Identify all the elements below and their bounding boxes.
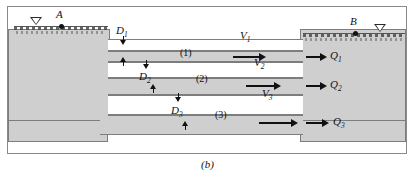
- pipe-1-diameter-symbol: D: [116, 24, 124, 36]
- pipe-2-section-label: (2): [196, 74, 208, 84]
- pipe-2-diameter-label: D2: [139, 71, 151, 85]
- pipe-2-velocity-label: V2: [254, 57, 264, 71]
- left-reservoir-lower-step: [8, 120, 108, 142]
- pipe-2-velocity-symbol: V: [254, 56, 261, 68]
- pipe-1-diameter-subscript: 1: [124, 30, 128, 39]
- pipe-1-flow-band: [108, 51, 303, 62]
- pipe-1-discharge-label: Q1: [330, 50, 342, 64]
- figure-schematic: A B D1 (1) V1 Q1 D2 (2): [0, 0, 415, 180]
- pipe-1-velocity-symbol: V: [240, 29, 247, 41]
- pipe-3-velocity-symbol: V: [262, 87, 269, 99]
- pipe-3-diameter-label: D3: [171, 105, 183, 119]
- left-water-level-triangle-icon: [30, 17, 42, 25]
- pipe-3-discharge-symbol: Q: [333, 115, 341, 127]
- point-b-marker: [353, 31, 358, 36]
- point-a-marker: [59, 24, 64, 29]
- pipe-1-discharge-symbol: Q: [330, 49, 338, 61]
- pipe-2-discharge-label: Q2: [330, 79, 342, 93]
- pipe-3-velocity-label: V3: [262, 88, 272, 102]
- pipe-3-flow-band: [108, 115, 303, 135]
- pipe-2-diameter-symbol: D: [139, 70, 147, 82]
- right-water-hatch-lower: [305, 38, 403, 41]
- pipe-2-velocity-subscript: 2: [261, 62, 265, 71]
- pipe-3-diameter-symbol: D: [171, 104, 179, 116]
- pipe-2-discharge-subscript: 2: [338, 84, 342, 93]
- pipe-3-velocity-subscript: 3: [269, 93, 273, 102]
- point-b-label: B: [350, 16, 357, 27]
- pipe-3-channel: [108, 95, 303, 115]
- pipe-1-diameter-label: D1: [116, 25, 128, 39]
- pipe-3-diameter-subscript: 3: [179, 110, 183, 119]
- left-water-hatch-lower: [16, 31, 106, 34]
- figure-caption: (b): [0, 158, 415, 170]
- point-a-label: A: [56, 9, 63, 20]
- pipe-3-discharge-subscript: 3: [341, 121, 345, 130]
- right-water-level-triangle-icon: [374, 24, 386, 32]
- pipe-3-section-label: (3): [215, 110, 227, 120]
- pipe-2-discharge-symbol: Q: [330, 78, 338, 90]
- pipe-3-discharge-label: Q3: [333, 116, 345, 130]
- pipe-1-discharge-subscript: 1: [338, 55, 342, 64]
- pipe-1-velocity-label: V1: [240, 30, 250, 44]
- pipe-1-channel: [108, 39, 303, 51]
- pipe-1-velocity-subscript: 1: [247, 35, 251, 44]
- pipe-1-section-label: (1): [180, 48, 192, 58]
